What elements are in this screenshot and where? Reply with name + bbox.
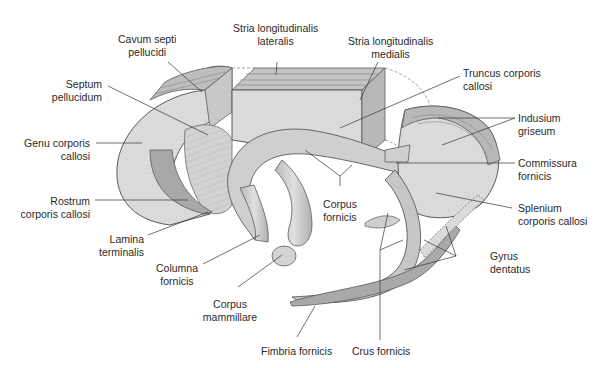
- label-line: Crus fornicis: [352, 345, 410, 358]
- label-line: Truncus corporis: [463, 67, 541, 80]
- label-line: pellucidum: [50, 91, 102, 104]
- label-line: dentatus: [490, 263, 530, 276]
- label-line: pellucidi: [118, 46, 176, 59]
- anatomy-illustration: [0, 0, 599, 368]
- label-line: callosi: [14, 150, 90, 163]
- hippocampal-tail-shape: [365, 216, 400, 228]
- label-cavum-septi-pellucidi: Cavum septi pellucidi: [118, 33, 176, 58]
- label-genu-corporis-callosi: Genu corporis callosi: [14, 137, 90, 162]
- label-corpus-fornicis: Corpus fornicis: [318, 198, 362, 223]
- label-stria-longitudinalis-medialis: Stria longitudinalis medialis: [348, 35, 433, 60]
- label-crus-fornicis: Crus fornicis: [352, 345, 410, 358]
- label-lamina-terminalis: Lamina terminalis: [90, 233, 144, 258]
- label-line: medialis: [348, 48, 433, 61]
- commissura-fornicis-shape: [385, 145, 410, 162]
- label-line: Indusium: [518, 112, 561, 125]
- label-indusium-griseum: Indusium griseum: [518, 112, 561, 137]
- corpus-mammillare-shape: [272, 246, 296, 266]
- label-line: fornicis: [318, 211, 362, 224]
- label-line: Splenium: [518, 202, 587, 215]
- label-splenium-corporis-callosi: Splenium corporis callosi: [518, 202, 587, 227]
- label-line: Corpus: [200, 298, 260, 311]
- label-line: lateralis: [233, 35, 318, 48]
- label-columna-fornicis: Columna fornicis: [154, 262, 200, 287]
- label-septum-pellucidum: Septum pellucidum: [50, 78, 102, 103]
- label-line: Corpus: [318, 198, 362, 211]
- label-line: Stria longitudinalis: [348, 35, 433, 48]
- label-line: corporis callosi: [518, 215, 587, 228]
- label-line: corporis callosi: [10, 208, 90, 221]
- label-line: fornicis: [154, 275, 200, 288]
- label-line: Genu corporis: [14, 137, 90, 150]
- label-gyrus-dentatus: Gyrus dentatus: [490, 250, 530, 275]
- label-line: Cavum septi: [118, 33, 176, 46]
- label-fimbria-fornicis: Fimbria fornicis: [261, 345, 332, 358]
- columna-fornicis-right-shape: [275, 160, 312, 246]
- label-truncus-corporis-callosi: Truncus corporis callosi: [463, 67, 541, 92]
- label-line: Fimbria fornicis: [261, 345, 332, 358]
- label-stria-longitudinalis-lateralis: Stria longitudinalis lateralis: [233, 22, 318, 47]
- label-line: Columna: [154, 262, 200, 275]
- label-line: Gyrus: [490, 250, 530, 263]
- label-line: Lamina: [90, 233, 144, 246]
- label-corpus-mammillare: Corpus mammillare: [200, 298, 260, 323]
- label-line: Septum: [50, 78, 102, 91]
- label-line: mammillare: [200, 311, 260, 324]
- label-line: fornicis: [518, 170, 577, 183]
- label-line: callosi: [463, 80, 541, 93]
- label-line: Commissura: [518, 157, 577, 170]
- label-line: terminalis: [90, 246, 144, 259]
- label-line: Rostrum: [10, 195, 90, 208]
- label-line: Stria longitudinalis: [233, 22, 318, 35]
- label-commissura-fornicis: Commissura fornicis: [518, 157, 577, 182]
- label-line: griseum: [518, 125, 561, 138]
- label-rostrum-corporis-callosi: Rostrum corporis callosi: [10, 195, 90, 220]
